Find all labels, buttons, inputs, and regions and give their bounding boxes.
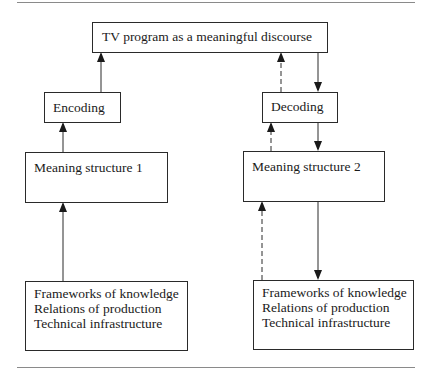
meaning-structure-2-box: Meaning structure 2 <box>243 151 385 202</box>
encoding-label: Encoding <box>53 100 120 115</box>
arrowhead-up-icon <box>59 122 67 132</box>
infra-left-line-2: Relations of production <box>34 301 187 316</box>
infra-left-line-1: Frameworks of knowledge <box>34 286 187 301</box>
arrowhead-down-icon <box>314 82 322 92</box>
infrastructure-right-box: Frameworks of knowledge Relations of pro… <box>253 280 414 350</box>
arrowhead-down-icon <box>314 270 322 280</box>
arrowhead-up-icon <box>267 122 275 132</box>
infrastructure-left-box: Frameworks of knowledge Relations of pro… <box>25 281 188 351</box>
arrowhead-up-icon <box>277 52 285 62</box>
meaning-structure-1-label: Meaning structure 1 <box>34 160 167 175</box>
discourse-box: TV program as a meaningful discourse <box>92 22 328 53</box>
arrowhead-down-icon <box>314 141 322 151</box>
arrowhead-up-icon <box>258 201 266 211</box>
meaning-structure-2-label: Meaning structure 2 <box>252 159 384 174</box>
encoding-box: Encoding <box>44 92 121 123</box>
meaning-structure-1-box: Meaning structure 1 <box>25 152 168 203</box>
infra-left-line-3: Technical infrastructure <box>34 316 187 331</box>
infra-right-line-1: Frameworks of knowledge <box>262 285 413 300</box>
infra-right-line-3: Technical infrastructure <box>262 315 413 330</box>
decoding-box: Decoding <box>262 92 338 123</box>
discourse-label: TV program as a meaningful discourse <box>102 29 327 44</box>
decoding-label: Decoding <box>271 99 337 114</box>
infra-right-line-2: Relations of production <box>262 300 413 315</box>
arrowhead-up-icon <box>97 52 105 62</box>
arrowhead-up-icon <box>59 202 67 212</box>
